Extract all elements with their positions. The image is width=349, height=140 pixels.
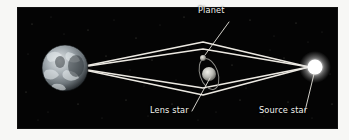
- microlensing-figure: Planet Lens star Source star: [0, 0, 349, 140]
- leader-lines: [192, 22, 314, 111]
- label-lens-star: Lens star: [150, 106, 189, 114]
- planet-dot: [200, 55, 206, 61]
- label-planet: Planet: [198, 6, 225, 14]
- source-star-glow: [299, 51, 331, 83]
- light-ray-paths: [75, 42, 309, 95]
- leader-line-planet: [205, 22, 229, 55]
- label-source-star: Source star: [259, 106, 307, 114]
- light-ray-lower-inner: [75, 67, 309, 88]
- earth-sphere: [42, 45, 88, 92]
- light-ray-lower: [75, 67, 309, 95]
- light-ray-upper: [75, 42, 309, 68]
